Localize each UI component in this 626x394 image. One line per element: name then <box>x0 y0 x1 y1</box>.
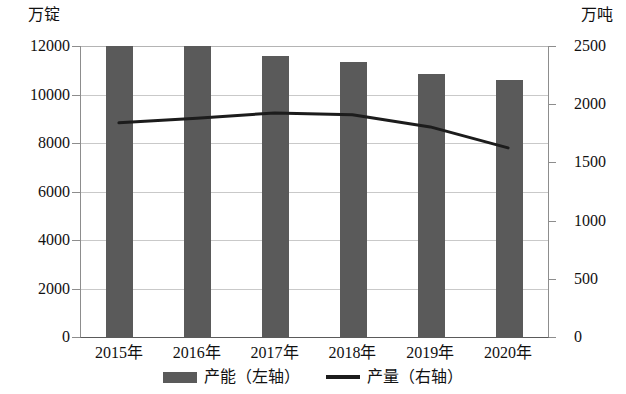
right-axis-tick-mark <box>548 337 556 338</box>
legend-item: 产能（左轴） <box>163 368 300 386</box>
x-axis-tick-label: 2015年 <box>74 344 164 362</box>
left-axis-tick-label: 8000 <box>6 135 70 151</box>
left-axis-tick-mark <box>72 95 80 96</box>
x-axis-tick-label: 2016年 <box>152 344 242 362</box>
right-axis-tick-label: 2500 <box>574 38 626 54</box>
line-path <box>119 113 508 148</box>
x-axis-tick-label: 2018年 <box>307 344 397 362</box>
legend-label: 产能（左轴） <box>204 368 300 386</box>
left-axis-tick-mark <box>72 192 80 193</box>
legend-label: 产量（右轴） <box>367 368 463 386</box>
left-axis-tick-mark <box>72 337 80 338</box>
left-axis-tick-mark <box>72 46 80 47</box>
left-axis-tick-label: 6000 <box>6 184 70 200</box>
left-axis-tick-mark <box>72 143 80 144</box>
left-axis-unit-label: 万锭 <box>28 6 60 24</box>
right-axis-tick-mark <box>548 279 556 280</box>
right-axis-unit-label: 万吨 <box>581 6 613 24</box>
right-axis-tick-label: 500 <box>574 271 626 287</box>
right-axis-tick-label: 1000 <box>574 213 626 229</box>
right-axis-tick-mark <box>548 162 556 163</box>
right-axis-tick-label: 0 <box>574 329 626 345</box>
legend-item: 产量（右轴） <box>326 368 463 386</box>
left-axis-tick-mark <box>72 289 80 290</box>
x-axis-tick-label: 2019年 <box>385 344 475 362</box>
left-axis-tick-mark <box>72 240 80 241</box>
line-series-产量 <box>80 46 547 337</box>
right-axis-tick-mark <box>548 221 556 222</box>
x-axis-tick-label: 2020年 <box>463 344 553 362</box>
right-axis-tick-mark <box>548 46 556 47</box>
left-axis-tick-label: 2000 <box>6 281 70 297</box>
chart-legend: 产能（左轴）产量（右轴） <box>0 368 626 386</box>
left-axis-tick-label: 0 <box>6 329 70 345</box>
right-axis-tick-label: 2000 <box>574 96 626 112</box>
left-axis-tick-label: 4000 <box>6 232 70 248</box>
left-axis-tick-label: 12000 <box>6 38 70 54</box>
right-axis-tick-label: 1500 <box>574 154 626 170</box>
legend-line-swatch-icon <box>326 375 360 379</box>
left-axis-tick-label: 10000 <box>6 87 70 103</box>
chart-container: 万锭 万吨 020004000600080001000012000 050010… <box>0 0 626 394</box>
right-axis-tick-mark <box>548 104 556 105</box>
x-axis-tick-label: 2017年 <box>230 344 320 362</box>
legend-bar-swatch-icon <box>163 372 197 383</box>
